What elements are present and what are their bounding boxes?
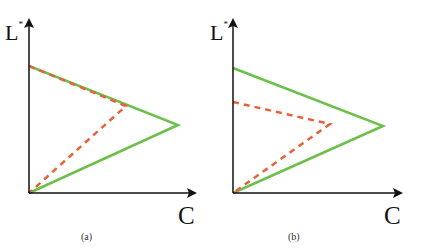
- caption-a: (a): [81, 231, 92, 243]
- caption-b: (b): [288, 231, 300, 243]
- x-axis-label-b: C: [384, 202, 401, 229]
- green-gamut-triangle-a: [29, 66, 178, 193]
- diagram-canvas: L* C (a) L* C (b): [0, 0, 425, 250]
- panel-b: L* C (b): [210, 19, 401, 243]
- panel-a: L* C (a): [5, 19, 195, 243]
- red-dashed-gamut-b: [233, 102, 330, 193]
- green-gamut-triangle-b: [233, 68, 383, 193]
- y-axis-label-b: L*: [210, 19, 228, 45]
- x-axis-label-a: C: [178, 202, 195, 229]
- y-axis-label-a: L*: [5, 19, 23, 45]
